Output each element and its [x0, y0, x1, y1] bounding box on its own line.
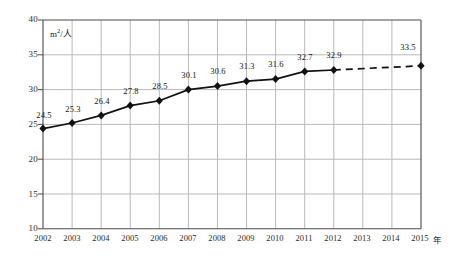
data-label-2008: 30.6: [205, 66, 231, 76]
horizontal-gridlines: [43, 55, 421, 194]
data-label-2007: 30.1: [176, 70, 202, 80]
x-axis-unit-label: 年: [433, 233, 442, 245]
y-axis-ticks: [38, 20, 43, 229]
data-label-2002: 24.5: [31, 110, 57, 120]
data-line-dashed: [334, 66, 421, 70]
x-axis-tick-2015: 2015: [403, 233, 437, 243]
data-label-2012: 32.9: [321, 50, 347, 60]
data-label-2004: 26.4: [89, 96, 115, 106]
data-label-2011: 32.7: [292, 52, 318, 62]
data-label-2010: 31.6: [263, 59, 289, 69]
data-label-2003: 25.3: [60, 104, 86, 114]
line-chart: 40 35 30 25 20 15 10 m2/人: [0, 0, 464, 261]
data-label-2006: 28.5: [147, 81, 173, 91]
plot-area: [0, 0, 464, 261]
data-label-2009: 31.3: [234, 61, 260, 71]
data-label-2005: 27.8: [118, 86, 144, 96]
data-label-2015: 33.5: [395, 42, 421, 52]
